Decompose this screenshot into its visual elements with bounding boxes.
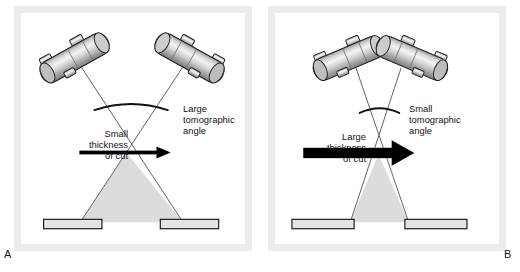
tomographic-angle-arc — [94, 104, 167, 110]
x-ray-tube-left — [307, 27, 389, 86]
detector-plate-left — [292, 219, 354, 228]
panel-b-angle-label: Small tomographic angle — [409, 103, 475, 137]
panel-a-angle-label: Large tomographic angle — [183, 103, 249, 137]
panel-a-thickness-label: Small thickness of cut — [54, 128, 128, 162]
detector-plate-right — [160, 219, 218, 228]
tomography-figure: Small thickness of cut Large tomographic… — [0, 0, 520, 272]
detector-plate-right — [405, 219, 467, 228]
panel-a-letter: A — [4, 248, 12, 260]
x-ray-tube-right — [372, 27, 454, 86]
detector-plate-left — [44, 219, 102, 228]
panel-b-thickness-label: Large thickness of cut — [296, 131, 366, 165]
x-ray-tube-right — [150, 24, 231, 88]
tomographic-angle-arc — [360, 108, 400, 113]
panel-b-letter: B — [504, 248, 512, 260]
beam-shaded-region — [80, 153, 183, 223]
x-ray-tube-left — [33, 24, 114, 88]
